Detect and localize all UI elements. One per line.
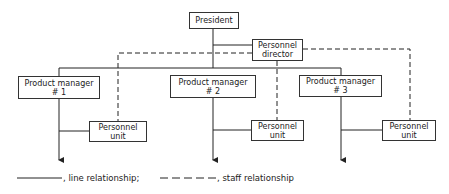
legend-line-label: , line relationship; <box>63 173 139 183</box>
pu2-line2: unit <box>270 131 286 140</box>
president-label: President <box>195 16 232 25</box>
legend-staff-label: , staff relationship <box>217 173 294 183</box>
pm2-line2: # 2 <box>206 87 220 96</box>
personnel-director-line1: Personnel <box>258 41 297 50</box>
pm3-line2: # 3 <box>333 86 347 95</box>
personnel-director-box: Personnel director <box>252 39 303 61</box>
personnel-unit-3-box: Personnel unit <box>382 120 436 141</box>
pm1-line2: # 1 <box>52 88 66 97</box>
president-box: President <box>189 12 239 29</box>
pu1-line2: unit <box>110 132 126 141</box>
pu1-line1: Personnel <box>98 123 137 132</box>
product-manager-1-box: Product manager # 1 <box>18 76 100 99</box>
personnel-unit-2-box: Personnel unit <box>251 120 304 141</box>
product-manager-2-box: Product manager # 2 <box>170 75 256 98</box>
personnel-director-line2: director <box>262 50 293 59</box>
personnel-unit-1-box: Personnel unit <box>89 121 147 142</box>
product-manager-3-box: Product manager # 3 <box>299 75 382 97</box>
pu2-line1: Personnel <box>258 122 297 131</box>
pu3-line1: Personnel <box>389 122 428 131</box>
pm2-line1: Product manager <box>179 78 248 87</box>
pm1-line1: Product manager <box>25 79 94 88</box>
pu3-line2: unit <box>401 131 417 140</box>
pm3-line1: Product manager <box>306 77 375 86</box>
